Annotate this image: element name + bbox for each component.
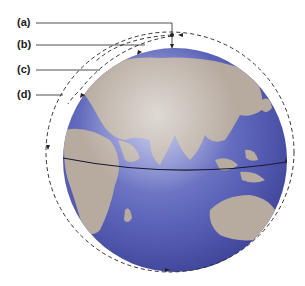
label-a: (a) xyxy=(17,17,30,28)
label-b: (b) xyxy=(17,39,31,50)
arrow-left-down-icon xyxy=(46,145,50,150)
arrow-top-left-icon xyxy=(178,33,183,37)
earth-globe xyxy=(63,48,287,272)
leader-a xyxy=(36,23,172,46)
earth-orbit-diagram xyxy=(0,0,305,286)
label-d: (d) xyxy=(17,89,31,100)
label-c: (c) xyxy=(17,64,30,75)
